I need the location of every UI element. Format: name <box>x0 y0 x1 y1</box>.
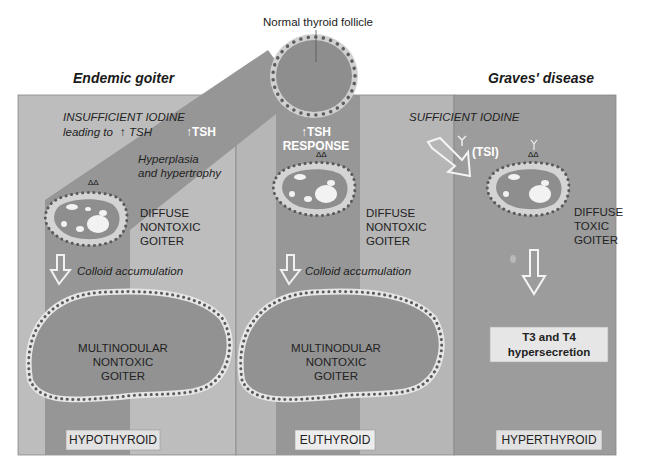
left-band-tsh-label: ↑TSH <box>186 125 216 139</box>
right-diffuse-label-2: TOXIC <box>574 220 609 232</box>
left-multinodular-label-2: NONTOXIC <box>93 356 154 368</box>
left-multinodular-label-1: MULTINODULAR <box>78 342 168 354</box>
tsh-label: TSH <box>129 126 153 138</box>
middle-colloid-label: Colloid accumulation <box>305 265 411 277</box>
tsh-up-arrow-icon: ↑ <box>120 126 126 138</box>
endemic-goiter-header: Endemic goiter <box>73 70 176 86</box>
graves-disease-header: Graves' disease <box>488 70 594 86</box>
left-diffuse-label-3: GOITER <box>140 235 184 247</box>
left-colloid-label: Colloid accumulation <box>77 265 183 277</box>
right-diffuse-label-1: DIFFUSE <box>574 206 624 218</box>
tsi-label: (TSI) <box>472 145 499 159</box>
middle-diffuse-label-3: GOITER <box>366 235 410 247</box>
hypothyroid-label: HYPOTHYROID <box>69 433 157 447</box>
left-diffuse-label-2: NONTOXIC <box>140 221 201 233</box>
middle-multinodular-label-3: GOITER <box>314 370 358 382</box>
small-cell-icon <box>510 255 516 263</box>
insufficient-iodine-label: INSUFFICIENT IODINE <box>63 111 185 123</box>
sufficient-iodine-label: SUFFICIENT IODINE <box>409 111 520 123</box>
hypersecretion-label-2: hypersecretion <box>508 346 590 358</box>
svg-text:ΔΔ: ΔΔ <box>88 178 99 187</box>
normal-follicle <box>270 30 358 118</box>
middle-multinodular-label-1: MULTINODULAR <box>291 342 381 354</box>
normal-follicle-label: Normal thyroid follicle <box>263 16 373 28</box>
hyperplasia-label: Hyperplasia <box>138 153 199 165</box>
svg-text:ΔΔ: ΔΔ <box>528 150 539 159</box>
left-diffuse-label-1: DIFFUSE <box>140 207 190 219</box>
thyroid-goiter-diagram: Normal thyroid follicle Endemic goiter G… <box>0 0 658 463</box>
right-diffuse-label-3: GOITER <box>574 234 618 246</box>
svg-text:ΔΔ: ΔΔ <box>316 150 327 159</box>
middle-diffuse-label-2: NONTOXIC <box>366 221 427 233</box>
middle-diffuse-label-1: DIFFUSE <box>366 207 416 219</box>
left-multinodular-label-3: GOITER <box>101 370 145 382</box>
middle-band-tsh-label: ↑TSH <box>301 125 331 139</box>
hypersecretion-label-1: T3 and T4 <box>522 331 576 343</box>
hyperthyroid-label: HYPERTHYROID <box>501 433 596 447</box>
euthyroid-label: EUTHYROID <box>300 433 371 447</box>
middle-multinodular-label-2: NONTOXIC <box>306 356 367 368</box>
hypertrophy-label: and hypertrophy <box>138 167 222 179</box>
leading-to-label: leading to <box>63 126 113 138</box>
